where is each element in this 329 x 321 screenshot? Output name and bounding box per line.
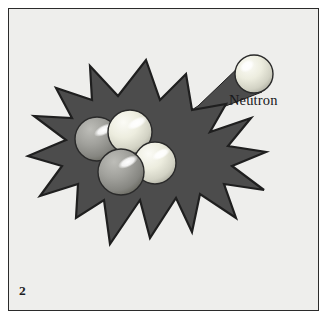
figure-illustration: Neutron 2 xyxy=(0,0,329,321)
figure-artwork xyxy=(0,0,329,321)
proton-sphere-bottom xyxy=(98,149,144,195)
neutron-label: Neutron xyxy=(229,92,278,109)
figure-number: 2 xyxy=(19,283,26,299)
neutron-sphere xyxy=(235,55,273,93)
